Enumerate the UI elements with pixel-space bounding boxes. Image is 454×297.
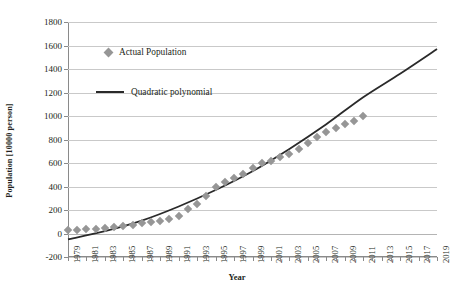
x-axis-tick-mark <box>86 257 87 261</box>
x-axis-tick-mark <box>271 257 272 261</box>
y-axis-tick-label: 0 <box>2 229 62 239</box>
y-axis-tick-label: -200 <box>2 252 62 262</box>
x-axis-tick-mark <box>262 257 263 261</box>
x-axis-tick-mark <box>77 257 78 261</box>
x-axis-tick-mark <box>289 257 290 261</box>
x-axis-tick-mark <box>326 257 327 261</box>
y-axis-tick-label: 800 <box>2 135 62 145</box>
x-axis-tick-mark <box>308 257 309 261</box>
y-axis-tick-label: 200 <box>2 205 62 215</box>
x-axis-tick-mark <box>216 257 217 261</box>
y-axis-tick-label: 600 <box>2 158 62 168</box>
x-axis-tick-mark <box>391 257 392 261</box>
x-axis-tick-mark <box>336 257 337 261</box>
population-growth-chart: Population [10000 person] 18001600140012… <box>0 0 454 297</box>
x-axis-tick-mark <box>105 257 106 261</box>
x-axis-tick-mark <box>225 257 226 261</box>
x-axis-tick-mark <box>243 257 244 261</box>
x-axis-tick-mark <box>142 257 143 261</box>
x-axis-tick-mark <box>382 257 383 261</box>
x-axis-title: Year <box>0 272 454 282</box>
x-axis-tick-mark <box>419 257 420 261</box>
x-axis-tick-mark <box>354 257 355 261</box>
x-axis-tick-mark <box>151 257 152 261</box>
x-axis-tick-label: 2019 <box>441 246 451 263</box>
plot-area: 180016001400120010008006004002000-200 19… <box>68 22 437 257</box>
y-axis-tick-label: 1600 <box>2 41 62 51</box>
x-axis-tick-mark <box>253 257 254 261</box>
x-axis-tick-mark <box>345 257 346 261</box>
x-axis-tick-mark <box>188 257 189 261</box>
y-axis-tick-label: 1200 <box>2 88 62 98</box>
x-axis-tick-mark <box>206 257 207 261</box>
x-axis-tick-mark <box>133 257 134 261</box>
y-axis-tick-label: 1800 <box>2 17 62 27</box>
x-axis-tick-mark <box>234 257 235 261</box>
y-axis-tick-label: 1400 <box>2 64 62 74</box>
x-axis-tick-mark <box>409 257 410 261</box>
x-axis-tick-mark <box>363 257 364 261</box>
x-axis-tick-mark <box>179 257 180 261</box>
y-axis-tick-label: 400 <box>2 182 62 192</box>
x-axis-tick-mark <box>68 257 69 261</box>
x-axis-tick-mark <box>169 257 170 261</box>
x-axis-tick-mark <box>123 257 124 261</box>
x-axis-tick-mark <box>299 257 300 261</box>
y-axis-tick-label: 1000 <box>2 111 62 121</box>
x-axis-tick-mark <box>428 257 429 261</box>
x-axis-tick-mark <box>372 257 373 261</box>
x-axis-tick-mark <box>114 257 115 261</box>
x-axis-tick-mark <box>197 257 198 261</box>
x-axis-tick-mark <box>280 257 281 261</box>
x-axis-tick-mark <box>160 257 161 261</box>
x-axis-tick-mark <box>317 257 318 261</box>
x-axis-tick-mark <box>96 257 97 261</box>
x-axis-tick-mark <box>437 257 438 261</box>
x-axis-tick-mark <box>400 257 401 261</box>
